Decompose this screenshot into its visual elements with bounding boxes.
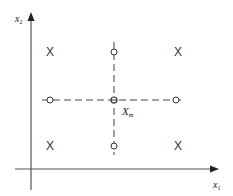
y-axis-arrow-icon	[28, 12, 35, 21]
factorial-point-bottom-left: X	[46, 140, 54, 152]
axial-point-top	[111, 49, 117, 55]
factorial-point-top-left: X	[46, 46, 54, 58]
factorial-point-top-right: X	[174, 46, 182, 58]
y-axis-label: x2	[15, 14, 22, 25]
axial-point-left	[47, 97, 53, 103]
center-point-label: Xm	[122, 106, 133, 118]
factorial-point-bottom-right: X	[174, 140, 182, 152]
x-axis-label: x1	[213, 180, 220, 191]
diagram-canvas	[0, 0, 233, 196]
axial-point-right	[173, 97, 179, 103]
x-axis-arrow-icon	[210, 166, 219, 173]
axial-point-bottom	[111, 143, 117, 149]
